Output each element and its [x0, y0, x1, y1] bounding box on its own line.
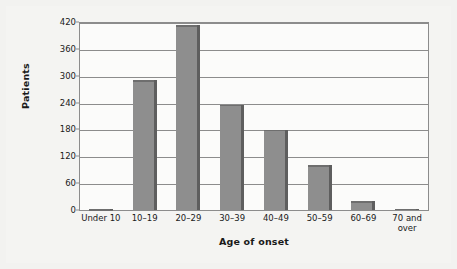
bar [308, 165, 332, 210]
bar-slot [133, 22, 157, 210]
x-axis-title: Age of onset [79, 236, 429, 247]
y-axis-tick-label: 360 [46, 44, 76, 54]
bar-right-edge [241, 105, 244, 210]
y-axis-title: Patients [20, 36, 36, 136]
bar [264, 130, 288, 210]
bar-slot [89, 22, 113, 210]
y-axis-tick-label: 240 [46, 98, 76, 108]
y-axis-tick-label: 120 [46, 151, 76, 161]
bar-slot [264, 22, 288, 210]
bar [133, 80, 157, 210]
y-axis-tick-label: 180 [46, 124, 76, 134]
bar-chart-figure: Patients 060120180240300360420 Under 101… [0, 0, 457, 269]
bar-right-edge [329, 165, 332, 210]
y-axis-tick-label: 60 [46, 178, 76, 188]
bar-right-edge [416, 209, 419, 210]
y-axis-tick-group: 060120180240300360420 [43, 22, 76, 211]
bar-right-edge [110, 209, 113, 210]
bar [395, 209, 419, 210]
bar [176, 25, 200, 210]
bar-right-edge [372, 201, 375, 210]
y-axis-tick-label: 300 [46, 71, 76, 81]
bar-right-edge [197, 25, 200, 210]
bar-series-group [79, 22, 429, 210]
bar-slot [176, 22, 200, 210]
bar-slot [308, 22, 332, 210]
bar [351, 201, 375, 210]
x-axis-tick-label: 70 and over [377, 213, 437, 233]
bar-right-edge [154, 80, 157, 210]
bar-slot [395, 22, 419, 210]
bar-right-edge [285, 130, 288, 210]
bar-slot [351, 22, 375, 210]
bar-slot [220, 22, 244, 210]
bar [220, 105, 244, 210]
bar [89, 209, 113, 210]
y-axis-tick-label: 420 [46, 17, 76, 27]
